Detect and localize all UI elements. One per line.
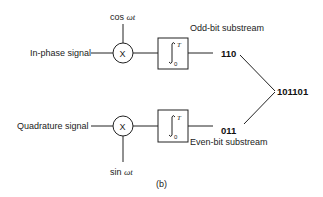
inphase-integral-lower: 0 [174,61,178,67]
quadrature-integral-lower: 0 [174,134,178,140]
inphase-integral-upper: T [177,41,182,49]
even-bits-value: 011 [221,125,237,136]
inphase-multiplier-symbol: X [120,49,126,59]
combiner-lower-line [244,92,275,124]
odd-bits-value: 110 [221,48,236,59]
quadrature-integral-upper: T [177,114,182,122]
quadrature-branch: Quadrature signal X sin ωt T 0 011 Even-… [17,110,268,177]
figure-caption: (b) [156,179,167,189]
inphase-carrier-label: cos ωt [110,12,136,22]
quadrature-integrator-box [158,110,188,142]
even-bit-substream-label: Even-bit substream [190,137,268,147]
output-bits-value: 101101 [277,86,309,97]
quadrature-input-label: Quadrature signal [17,121,89,131]
inphase-input-label: In-phase signal [30,48,91,58]
combiner-upper-line [240,55,275,91]
quadrature-carrier-label: sin ωt [110,167,133,177]
quadrature-multiplier-symbol: X [120,122,126,132]
qpsk-demodulator-diagram: In-phase signal cos ωt X T 0 Odd-bit sub… [0,0,323,197]
inphase-branch: In-phase signal cos ωt X T 0 Odd-bit sub… [30,12,264,69]
odd-bit-substream-label: Odd-bit substream [190,23,264,33]
